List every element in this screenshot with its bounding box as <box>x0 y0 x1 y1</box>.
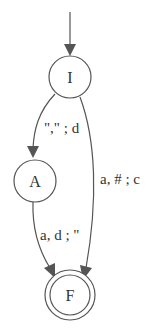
state-I-label: I <box>67 69 72 86</box>
state-F[interactable]: F <box>45 270 95 320</box>
state-A-label: A <box>29 173 41 190</box>
edge-I-to-F <box>80 97 94 280</box>
edge-label-I-A: "," ; d <box>44 120 80 136</box>
state-A[interactable]: A <box>14 160 56 202</box>
state-I[interactable]: I <box>49 56 91 98</box>
edge-label-I-F: a, # ; c <box>100 171 140 187</box>
state-F-label: F <box>66 287 75 304</box>
state-diagram: I A F "," ; d a, # ; c a, d ; " <box>0 0 152 333</box>
edge-label-A-F: a, d ; " <box>40 227 79 243</box>
initial-arrow <box>64 12 76 56</box>
